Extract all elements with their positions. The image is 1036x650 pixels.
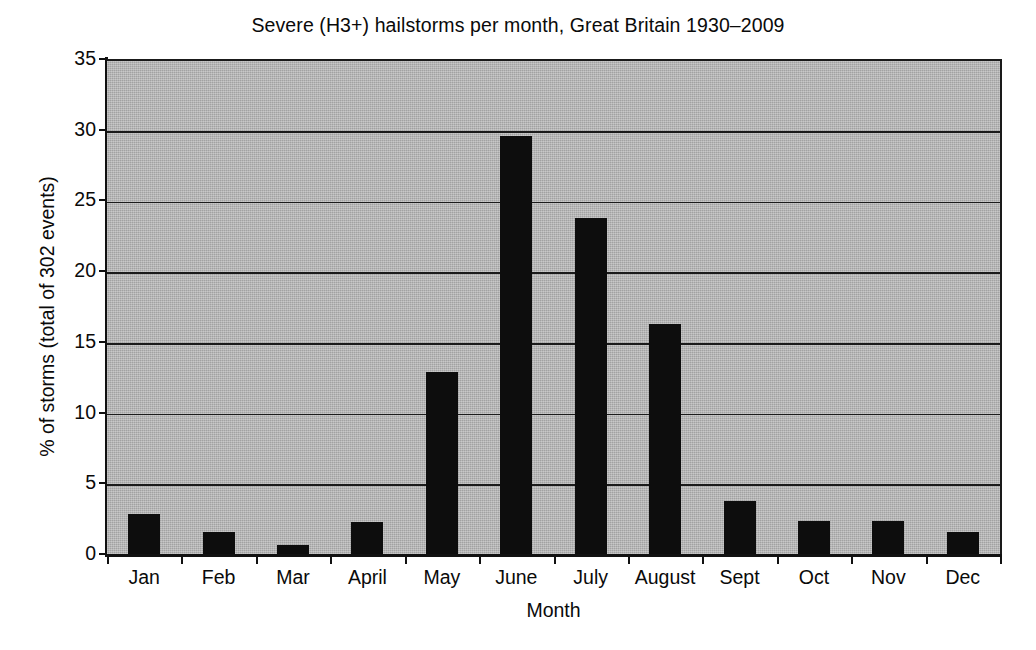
x-axis-tick-mark xyxy=(405,556,407,564)
x-axis-tick-label: April xyxy=(348,566,387,588)
y-axis-tick-mark xyxy=(99,553,107,555)
x-axis-tick-mark xyxy=(256,556,258,564)
gridline xyxy=(107,272,1000,274)
x-axis-tick-label: Jan xyxy=(128,566,159,588)
x-axis-tick-mark xyxy=(554,556,556,564)
gridline xyxy=(107,343,1000,345)
gridline xyxy=(107,414,1000,416)
x-axis-tick-mark xyxy=(107,556,109,564)
y-axis-tick-label: 30 xyxy=(48,120,96,140)
x-axis-tick-mark xyxy=(702,556,704,564)
y-axis-tick-mark xyxy=(99,482,107,484)
bar-sept xyxy=(724,501,756,556)
chart-title: Severe (H3+) hailstorms per month, Great… xyxy=(0,14,1036,37)
x-axis-tick-label: July xyxy=(573,566,608,588)
x-axis-title: Month xyxy=(107,599,1000,622)
bar-july xyxy=(575,218,607,556)
x-axis-tick-label: Dec xyxy=(945,566,980,588)
y-axis-tick-label: 20 xyxy=(48,261,96,281)
x-axis-tick-label: Mar xyxy=(276,566,310,588)
x-axis-tick-mark xyxy=(181,556,183,564)
bar-april xyxy=(351,522,383,556)
x-axis-tick-mark xyxy=(330,556,332,564)
y-axis-tick-labels: 05101520253035 xyxy=(48,59,96,554)
plot-area xyxy=(107,59,1002,556)
bar-oct xyxy=(798,521,830,556)
y-axis-tick-mark xyxy=(99,412,107,414)
bar-feb xyxy=(203,532,235,556)
x-axis-tick-label: Nov xyxy=(871,566,906,588)
chart-figure: Severe (H3+) hailstorms per month, Great… xyxy=(0,0,1036,650)
bar-jan xyxy=(128,514,160,556)
x-axis-tick-label: May xyxy=(423,566,460,588)
x-axis-tick-label: June xyxy=(495,566,537,588)
y-axis-tick-mark xyxy=(99,270,107,272)
gridline xyxy=(107,131,1000,133)
x-axis-tick-mark xyxy=(479,556,481,564)
bar-august xyxy=(649,324,681,556)
x-axis-tick-label: Feb xyxy=(202,566,236,588)
y-axis-tick-mark xyxy=(99,199,107,201)
x-axis-tick-label: Sept xyxy=(719,566,759,588)
x-axis-tick-mark xyxy=(926,556,928,564)
x-axis-tick-mark xyxy=(628,556,630,564)
y-axis-tick-label: 5 xyxy=(48,474,96,494)
x-axis-tick-mark xyxy=(1000,556,1002,564)
y-axis-tick-mark xyxy=(99,58,107,60)
bar-june xyxy=(500,136,532,556)
y-axis-tick-mark xyxy=(99,129,107,131)
x-axis-tick-label: August xyxy=(635,566,696,588)
bar-nov xyxy=(872,521,904,556)
y-axis-tick-label: 15 xyxy=(48,332,96,352)
gridline xyxy=(107,484,1000,486)
bar-may xyxy=(426,372,458,556)
y-axis-tick-label: 35 xyxy=(48,49,96,69)
y-axis-tick-label: 10 xyxy=(48,403,96,423)
x-axis-tick-mark xyxy=(851,556,853,564)
x-axis-tick-mark xyxy=(777,556,779,564)
bar-dec xyxy=(947,532,979,556)
y-axis-tick-label: 25 xyxy=(48,191,96,211)
gridline xyxy=(107,202,1000,204)
x-axis-tick-label: Oct xyxy=(799,566,829,588)
y-axis-tick-label: 0 xyxy=(48,544,96,564)
y-axis-tick-mark xyxy=(99,341,107,343)
